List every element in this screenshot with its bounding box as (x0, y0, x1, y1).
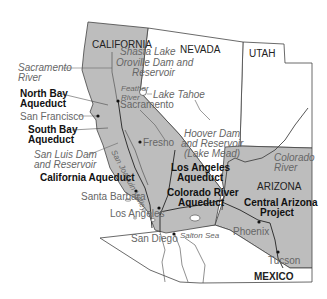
label-central-arizona-project-2: Project (260, 207, 294, 218)
label-salton-sea: Salton Sea (180, 230, 219, 241)
label-los-angeles-aqueduct-2: Aqueduct (177, 172, 223, 183)
label-colorado-river-aqueduct-2: Aqueduct (178, 197, 224, 208)
label-north-bay-aqueduct-2: Aqueduct (20, 98, 66, 109)
label-oroville-2: Reservoir (132, 67, 175, 78)
tucson-dot (276, 250, 279, 253)
label-tucson: Tucson (268, 255, 300, 266)
label-fresno: Fresno (143, 137, 174, 148)
label-hoover-3: (Lake Mead) (184, 148, 240, 159)
label-los-angeles: Los Angeles (110, 208, 165, 219)
label-nevada: NEVADA (180, 44, 220, 55)
label-california-aqueduct: California Aqueduct (40, 172, 135, 183)
label-shasta-lake: Shasta Lake (120, 46, 176, 57)
label-utah: UTAH (249, 48, 275, 59)
label-santa-barbara: Santa Barbara (81, 191, 146, 202)
label-south-bay-aqueduct-2: Aqueduct (28, 134, 74, 145)
san-francisco-dot (96, 114, 99, 117)
label-sacramento: Sacramento (120, 99, 174, 110)
label-colorado-river-2: River (274, 162, 297, 173)
label-phoenix: Phoenix (233, 226, 269, 237)
label-san-diego: San Diego (131, 233, 178, 244)
label-mexico: MEXICO (254, 271, 293, 282)
label-sacramento-river-2: River (18, 72, 41, 83)
label-san-francisco: San Francisco (20, 111, 84, 122)
fresno-dot (138, 140, 141, 143)
phoenix-dot (257, 220, 260, 223)
label-arizona: ARIZONA (257, 181, 301, 192)
label-san-luis-2: and Reservoir (34, 159, 96, 170)
